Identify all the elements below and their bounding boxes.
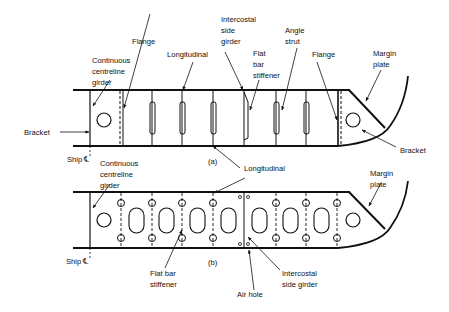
label-flat-bar-b-1: Flat bar bbox=[150, 269, 176, 278]
label-centre-girder-1: Continuous bbox=[92, 56, 131, 65]
label-intercostal-b-2: side girder bbox=[282, 280, 318, 289]
label-centre-girder-b-1: Continuous bbox=[100, 159, 139, 168]
label-flat-bar-2: bar bbox=[253, 60, 264, 69]
label-bracket-right: Bracket bbox=[400, 146, 427, 155]
floor-stiffeners-b bbox=[118, 193, 341, 247]
label-flange-left: Flange bbox=[132, 37, 155, 46]
label-flat-bar-1: Flat bbox=[253, 49, 267, 58]
lightening-hole-bracket-left-a bbox=[97, 113, 111, 127]
label-panel-b: (b) bbox=[208, 258, 218, 267]
margin-plate-a bbox=[349, 90, 385, 128]
label-intercostal-3: girder bbox=[221, 37, 241, 46]
label-flange-right: Flange bbox=[312, 50, 335, 59]
label-air-hole: Air hole bbox=[237, 290, 263, 299]
label-intercostal-b-1: Intercostal bbox=[282, 269, 317, 278]
label-centre-girder-2: centreline bbox=[92, 67, 125, 76]
label-intercostal-1: Intercostal bbox=[221, 15, 256, 24]
label-intercostal-2: side bbox=[221, 26, 235, 35]
label-panel-a: (a) bbox=[208, 157, 218, 166]
label-margin-plate-b-2: plate bbox=[370, 180, 386, 189]
label-angle-strut-2: strut bbox=[285, 37, 301, 46]
panel-b bbox=[73, 178, 408, 290]
label-margin-plate-b-1: Margin bbox=[370, 169, 393, 178]
label-centre-girder-3: girder bbox=[92, 78, 112, 87]
lightening-holes-b bbox=[129, 208, 329, 233]
label-angle-strut-1: Angle bbox=[285, 26, 304, 35]
label-margin-plate-1: Margin bbox=[373, 49, 396, 58]
label-longitudinal-b: Longitudinal bbox=[244, 164, 285, 173]
double-bottom-diagram: Flange Continuous centreline girder Long… bbox=[0, 0, 449, 312]
lightening-hole-left-b bbox=[97, 213, 111, 227]
label-flat-bar-3: stiffener bbox=[253, 71, 280, 80]
lightening-hole-right-b bbox=[346, 213, 360, 227]
label-flat-bar-b-2: stiffener bbox=[150, 280, 177, 289]
labels-b: Continuous centreline girder Longitudina… bbox=[66, 159, 393, 299]
flat-bar-stiffener-a bbox=[244, 92, 248, 140]
lightening-hole-bracket-right-a bbox=[346, 113, 360, 127]
label-longitudinal-top: Longitudinal bbox=[167, 50, 208, 59]
angle-struts-a bbox=[150, 91, 309, 145]
label-ship-centreline-b: Ship ℄ bbox=[66, 257, 89, 266]
margin-plate-b bbox=[349, 192, 385, 229]
label-margin-plate-2: plate bbox=[373, 60, 389, 69]
label-centre-girder-b-3: girder bbox=[100, 181, 120, 190]
label-bracket-left: Bracket bbox=[24, 128, 51, 137]
label-ship-centreline-a: Ship ℄ bbox=[67, 155, 90, 164]
label-centre-girder-b-2: centreline bbox=[100, 170, 133, 179]
